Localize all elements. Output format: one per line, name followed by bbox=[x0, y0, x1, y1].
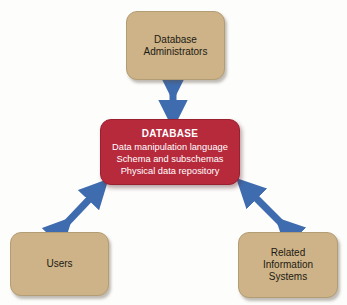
node-users-label: Users bbox=[46, 258, 72, 270]
database-environment-diagram: Database Administrators DATABASE Data ma… bbox=[0, 0, 347, 305]
connector-users-database bbox=[62, 190, 98, 228]
node-users: Users bbox=[10, 232, 109, 296]
node-database: DATABASE Data manipulation language Sche… bbox=[100, 119, 240, 185]
node-database-details: Data manipulation language Schema and su… bbox=[112, 141, 228, 177]
node-database-administrators: Database Administrators bbox=[126, 11, 225, 80]
connector-related-database bbox=[247, 189, 286, 228]
node-related-information-systems: Related Information Systems bbox=[238, 232, 338, 298]
node-database-administrators-label: Database Administrators bbox=[144, 34, 208, 58]
node-database-title: DATABASE bbox=[142, 128, 198, 139]
node-related-information-systems-label: Related Information Systems bbox=[263, 247, 313, 282]
